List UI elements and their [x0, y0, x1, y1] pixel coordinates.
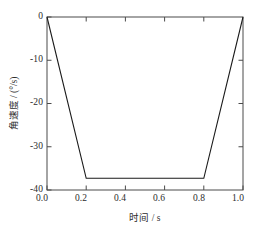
y-tick-label-1: -10	[0, 54, 43, 64]
x-axis-ticks	[47, 186, 243, 191]
y-tick-label-4: -40	[0, 184, 43, 194]
x-tick-label-0: 0.0	[36, 193, 48, 203]
y-axis-ticks-right	[239, 60, 244, 147]
plot-frame	[47, 17, 243, 190]
x-tick-label-5: 1.0	[232, 193, 244, 203]
y-tick-label-0: 0	[0, 11, 43, 21]
x-axis-ticks-top	[86, 17, 204, 22]
x-tick-label-1: 0.2	[75, 193, 87, 203]
angular-velocity-chart: 角速度 / (°/s) 时间 / s 0.0 0.2 0.4 0.6 0.8 1…	[0, 0, 260, 240]
y-tick-label-2: -20	[0, 97, 43, 107]
y-tick-label-3: -30	[0, 141, 43, 151]
y-axis-ticks	[47, 17, 52, 190]
data-line-angular-velocity	[47, 17, 243, 178]
x-tick-label-3: 0.6	[153, 193, 165, 203]
x-tick-label-2: 0.4	[114, 193, 126, 203]
x-tick-label-4: 0.8	[193, 193, 205, 203]
x-axis-label: 时间 / s	[129, 212, 160, 223]
plot-canvas: 角速度 / (°/s) 时间 / s	[0, 0, 260, 240]
